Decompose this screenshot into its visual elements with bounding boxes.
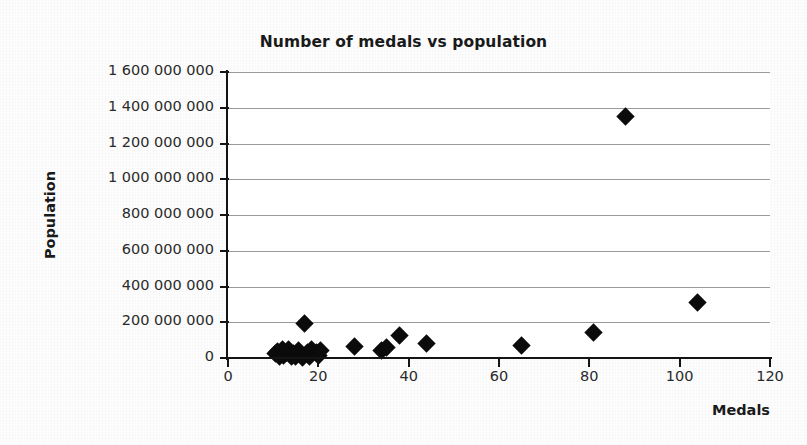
- data-point: [585, 323, 603, 341]
- gridline: [228, 108, 770, 109]
- x-axis-tick: [317, 358, 319, 367]
- y-axis-tick-label: 600 000 000: [64, 241, 214, 257]
- chart-page: Number of medals vs population Populatio…: [0, 0, 807, 445]
- x-axis-tick: [769, 358, 771, 367]
- gridline: [228, 251, 770, 252]
- x-axis-tick-label: 60: [469, 368, 529, 384]
- gridline: [228, 144, 770, 145]
- plot-area: [228, 72, 770, 358]
- data-point: [296, 314, 314, 332]
- data-point: [512, 336, 530, 354]
- data-point: [616, 107, 634, 125]
- y-axis-tick-label: 1 400 000 000: [64, 98, 214, 114]
- y-axis-tick: [220, 178, 229, 180]
- y-axis-tick: [220, 286, 229, 288]
- y-axis-tick-labels: 0200 000 000400 000 000600 000 000800 00…: [62, 0, 214, 445]
- x-axis-tick-label: 80: [559, 368, 619, 384]
- data-point: [418, 334, 436, 352]
- x-axis-tick-label: 0: [198, 368, 258, 384]
- data-point: [689, 293, 707, 311]
- x-axis-tick-label: 20: [288, 368, 348, 384]
- gridline: [228, 287, 770, 288]
- y-axis-tick: [220, 214, 229, 216]
- x-axis-tick: [408, 358, 410, 367]
- y-axis-tick: [220, 250, 229, 252]
- x-axis-tick: [498, 358, 500, 367]
- x-axis-tick: [227, 358, 229, 367]
- gridline: [228, 179, 770, 180]
- y-axis-title: Population: [38, 72, 62, 358]
- y-axis-tick-label: 400 000 000: [64, 277, 214, 293]
- x-axis-tick-label: 100: [650, 368, 710, 384]
- y-axis-tick-label: 0: [64, 348, 214, 364]
- y-axis-tick-label: 1 200 000 000: [64, 134, 214, 150]
- y-axis-title-label: Population: [42, 171, 58, 259]
- gridline: [228, 215, 770, 216]
- x-axis-title: Medals: [560, 402, 770, 418]
- x-axis-tick: [679, 358, 681, 367]
- y-axis-tick-label: 800 000 000: [64, 205, 214, 221]
- y-axis-tick-label: 1 600 000 000: [64, 62, 214, 78]
- gridline: [228, 72, 770, 73]
- x-axis-tick-label: 40: [379, 368, 439, 384]
- y-axis-tick: [220, 143, 229, 145]
- y-axis-tick: [220, 107, 229, 109]
- data-point: [345, 338, 363, 356]
- x-axis-tick-label: 120: [740, 368, 800, 384]
- y-axis-tick: [220, 71, 229, 73]
- y-axis-tick-label: 1 000 000 000: [64, 169, 214, 185]
- data-point: [390, 326, 408, 344]
- x-axis-tick: [588, 358, 590, 367]
- y-axis-tick: [220, 321, 229, 323]
- y-axis-tick-label: 200 000 000: [64, 312, 214, 328]
